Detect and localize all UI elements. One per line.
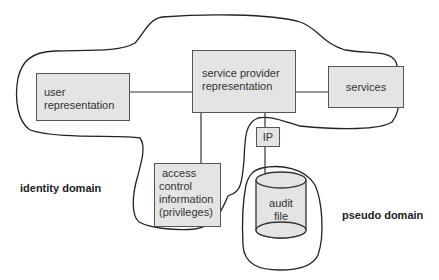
access-control-line3: information — [159, 193, 220, 206]
service-provider-node: service provider representation — [192, 50, 296, 113]
pseudo-domain-label: pseudo domain — [342, 209, 423, 221]
service-provider-line1: service provider — [202, 67, 295, 80]
access-control-line1: access — [159, 167, 220, 180]
access-control-line4: (privileges) — [159, 206, 220, 219]
ip-label: IP — [263, 131, 273, 143]
audit-file-line1: audit — [256, 197, 306, 210]
service-provider-line2: representation — [202, 80, 295, 93]
access-control-node: access control information (privileges) — [154, 163, 221, 227]
diagram-canvas — [0, 0, 439, 280]
audit-file-line2: file — [256, 210, 306, 223]
user-representation-line2: representation — [44, 99, 129, 112]
identity-domain-label: identity domain — [20, 182, 101, 194]
ip-node: IP — [256, 127, 280, 147]
services-label: services — [346, 81, 386, 93]
audit-file-label: audit file — [256, 197, 306, 223]
access-control-line2: control — [159, 180, 220, 193]
user-representation-line1: user — [44, 86, 129, 99]
services-node: services — [328, 66, 404, 108]
user-representation-node: user representation — [36, 73, 130, 121]
